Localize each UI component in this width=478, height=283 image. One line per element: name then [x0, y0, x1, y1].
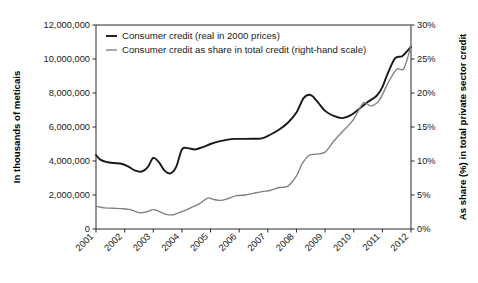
legend-layer: Consumer credit (real in 2000 prices)Con…	[106, 30, 366, 55]
x-tick-label: 2003	[131, 231, 153, 253]
y-tick-label-right: 0%	[417, 224, 430, 234]
y-tick-label-left: 12,000,000	[43, 20, 90, 30]
x-tick-label: 2012	[389, 231, 411, 253]
x-tick-label: 2004	[160, 231, 182, 253]
y-axis-title-left: In thousands of meticais	[11, 71, 22, 183]
y-tick-label-right: 20%	[417, 88, 436, 98]
legend-label-share: Consumer credit as share in total credit…	[122, 44, 366, 55]
x-tick-label: 2011	[361, 231, 382, 252]
y-tick-label-right: 15%	[417, 122, 436, 132]
series-line-consumer-credit	[96, 47, 411, 174]
axes-layer	[93, 25, 415, 233]
y-tick-label-left: 4,000,000	[49, 156, 90, 166]
y-tick-label-left: 2,000,000	[49, 190, 90, 200]
series-line-share	[96, 46, 411, 215]
y-tick-label-left: 6,000,000	[49, 122, 90, 132]
x-tick-label: 2001	[74, 231, 96, 253]
legend-label-consumer-credit: Consumer credit (real in 2000 prices)	[122, 30, 280, 41]
y-tick-label-right: 25%	[417, 54, 436, 64]
y-tick-label-left: 10,000,000	[43, 54, 90, 64]
line-chart: 02,000,0004,000,0006,000,0008,000,00010,…	[0, 0, 478, 283]
x-tick-label: 2002	[102, 231, 124, 253]
x-tick-label: 2009	[303, 231, 325, 253]
y-axis-title-right: As share (%) in total private sector cre…	[457, 33, 468, 220]
x-tick-label: 2008	[274, 231, 296, 253]
x-tick-label: 2006	[217, 231, 239, 253]
x-tick-label: 2005	[188, 231, 210, 253]
x-tick-label: 2010	[331, 231, 353, 253]
x-tick-label: 2007	[246, 231, 268, 253]
series-layer	[96, 46, 411, 215]
y-tick-label-left: 8,000,000	[49, 88, 90, 98]
y-tick-label-right: 10%	[417, 156, 436, 166]
plot-frame	[96, 25, 411, 229]
y-tick-label-right: 30%	[417, 20, 436, 30]
y-tick-label-right: 5%	[417, 190, 430, 200]
chart-container: 02,000,0004,000,0006,000,0008,000,00010,…	[0, 0, 478, 283]
